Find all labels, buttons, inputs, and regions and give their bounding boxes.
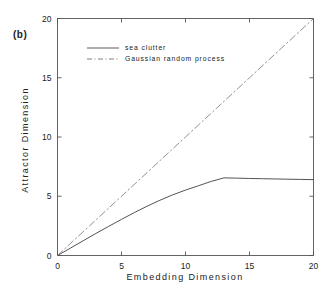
x-tick-label: 5 [119, 261, 124, 271]
legend-item-sea-clutter: sea clutter [86, 42, 225, 53]
x-axis-title: Embedding Dimension [57, 272, 313, 282]
y-tick-label: 20 [28, 14, 52, 24]
legend: sea clutter Gaussian random process [86, 42, 225, 64]
x-tick-label: 20 [309, 261, 318, 271]
y-axis-title: Attractor Dimension [20, 35, 30, 245]
series-line-sea-clutter [58, 178, 314, 256]
legend-label-sea-clutter: sea clutter [125, 44, 166, 51]
x-tick-label: 10 [181, 261, 190, 271]
x-tick-label: 0 [55, 261, 60, 271]
chart-figure: (b) 05101520 05101520 Embedding Dimensio… [0, 0, 334, 295]
legend-sample-dashdot-line-icon [86, 54, 120, 64]
y-tick-label: 0 [28, 251, 52, 261]
legend-sample-solid-line-icon [86, 43, 120, 53]
x-tick-label: 15 [245, 261, 254, 271]
y-axis-title-wrap: Attractor Dimension [20, 35, 34, 245]
legend-item-gaussian-random-process: Gaussian random process [86, 53, 225, 64]
legend-label-gaussian-random-process: Gaussian random process [125, 55, 225, 62]
